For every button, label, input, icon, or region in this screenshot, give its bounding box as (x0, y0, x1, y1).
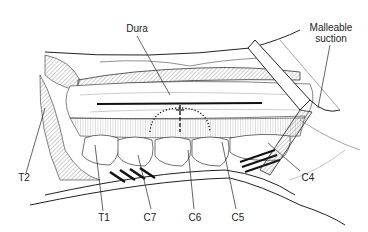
label-t1: T1 (94, 212, 114, 223)
label-c5: C5 (228, 212, 248, 223)
label-t2: T2 (14, 172, 34, 183)
label-suction: suction (306, 33, 356, 44)
label-malleable-suction: Malleable suction (306, 22, 356, 44)
label-malleable: Malleable (306, 22, 356, 33)
label-c6: C6 (185, 212, 205, 223)
label-c7: C7 (140, 212, 160, 223)
dural-incision-line (97, 103, 262, 104)
label-dura: Dura (120, 23, 154, 34)
label-c4: C4 (298, 172, 318, 183)
